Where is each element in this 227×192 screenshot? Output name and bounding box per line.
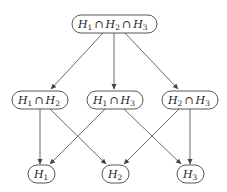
node-h3: H3: [177, 165, 204, 183]
lattice-diagram: H1∩H2∩H3 H1∩H2 H1∩H3 H2∩H3 H1 H2: [0, 0, 227, 192]
edge-n123-n12: [51, 33, 103, 89]
edge-n123-n23: [125, 33, 178, 89]
node-h2-cap-h3: H2∩H3: [162, 91, 218, 109]
svg-text:H1∩H2: H1∩H2: [17, 94, 60, 108]
svg-text:H1∩H3: H1∩H3: [92, 94, 135, 108]
node-h2: H2: [102, 165, 129, 183]
node-h1-cap-h2-cap-h3: H1∩H2∩H3: [72, 15, 157, 33]
node-h1-cap-h2: H1∩H2: [12, 91, 68, 109]
node-h1-cap-h3: H1∩H3: [87, 91, 143, 109]
svg-text:H2∩H3: H2∩H3: [167, 94, 210, 108]
node-h1: H1: [28, 165, 55, 183]
